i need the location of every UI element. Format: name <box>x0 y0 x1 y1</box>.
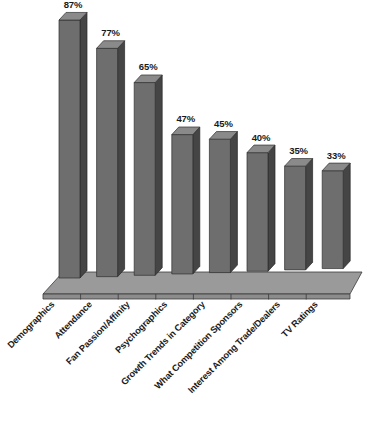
bar-chart: 87%77%65%47%45%40%35%33% DemographicsAtt… <box>0 0 370 423</box>
chart-canvas: 87%77%65%47%45%40%35%33% DemographicsAtt… <box>0 0 370 423</box>
bar-side-face <box>343 163 350 268</box>
bar-side-face <box>193 127 200 274</box>
bar-front-face <box>209 139 230 272</box>
bar-front-face <box>97 48 118 276</box>
bar-front-face <box>134 83 155 276</box>
bar-6[interactable] <box>247 145 275 271</box>
bar-5[interactable] <box>209 132 237 273</box>
bar-side-face <box>155 75 162 275</box>
bar-4[interactable] <box>172 127 200 274</box>
bar-8[interactable] <box>322 163 350 268</box>
category-label-1: Demographics <box>5 299 56 350</box>
bar-front-face <box>322 171 343 269</box>
bar-value-label: 35% <box>289 145 308 156</box>
bar-7[interactable] <box>285 159 313 270</box>
bar-front-face <box>285 166 306 270</box>
category-label-2: Attendance <box>53 299 94 340</box>
bar-value-label: 45% <box>214 118 233 129</box>
bar-3[interactable] <box>134 75 162 275</box>
category-label-3: Fan Passion/Affinity <box>64 299 132 367</box>
bar-2[interactable] <box>97 41 125 277</box>
bar-value-label: 33% <box>327 150 346 161</box>
bar-front-face <box>59 20 80 278</box>
bar-1[interactable] <box>59 12 87 278</box>
bar-side-face <box>268 145 275 271</box>
floor-top-surface <box>43 272 362 294</box>
bar-front-face <box>172 135 193 274</box>
bar-side-face <box>80 12 87 278</box>
bar-value-label: 40% <box>252 132 271 143</box>
bar-side-face <box>118 41 125 277</box>
bar-front-face <box>247 153 268 272</box>
bar-value-label: 65% <box>139 61 158 72</box>
bar-side-face <box>306 159 313 270</box>
bar-value-label: 77% <box>101 27 120 38</box>
bar-side-face <box>230 132 237 273</box>
bar-value-label: 47% <box>176 113 195 124</box>
floor-front-edge <box>43 294 350 299</box>
chart-floor <box>43 272 362 300</box>
category-labels-group: DemographicsAttendanceFan Passion/Affini… <box>5 299 319 396</box>
category-label-8: TV Ratings <box>280 299 320 339</box>
bar-value-label: 87% <box>64 0 83 10</box>
